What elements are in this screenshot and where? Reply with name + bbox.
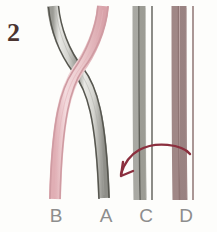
strand-label-d: D bbox=[174, 206, 198, 225]
strand-label-a: A bbox=[94, 206, 118, 225]
strand-d bbox=[179, 6, 194, 200]
strand-c bbox=[139, 6, 152, 200]
strand-label-c: C bbox=[134, 206, 158, 225]
step-number: 2 bbox=[7, 20, 20, 46]
strand-label-b: B bbox=[44, 206, 68, 225]
braid-diagram bbox=[0, 0, 217, 232]
diagram-container: 2 B A C D bbox=[0, 0, 217, 232]
